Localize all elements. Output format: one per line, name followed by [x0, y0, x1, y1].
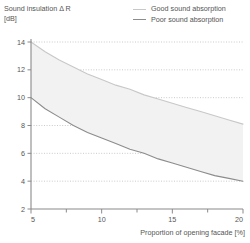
- chart-legend: Good sound absorption Poor sound absorpt…: [133, 4, 226, 25]
- legend-label-good: Good sound absorption: [151, 4, 226, 15]
- y-tick-label-14: 14: [17, 38, 25, 47]
- legend-swatch-good-icon: [133, 9, 146, 10]
- legend-swatch-poor-icon: [133, 19, 146, 20]
- y-tick-label-12: 12: [17, 65, 25, 74]
- legend-label-poor: Poor sound absorption: [151, 15, 223, 26]
- y-axis-title-line1: Sound insulation Δ R: [4, 4, 71, 14]
- y-axis-title-unit: [dB]: [4, 14, 71, 24]
- x-tick-label-15: 15: [168, 215, 176, 224]
- x-tick-label-10: 10: [98, 215, 106, 224]
- legend-item-poor: Poor sound absorption: [133, 15, 226, 26]
- x-tick-label-20: 20: [235, 215, 243, 224]
- y-tick-label-10: 10: [17, 93, 25, 102]
- y-axis-title: Sound insulation Δ R [dB]: [4, 4, 71, 23]
- y-tick-label-4: 4: [21, 177, 25, 186]
- y-tick-label-2: 2: [21, 205, 25, 214]
- chart-figure: Sound insulation Δ R [dB] Good sound abs…: [0, 0, 250, 243]
- y-tick-label-8: 8: [21, 121, 25, 130]
- x-tick-label-5: 5: [31, 215, 35, 224]
- x-axis-title: Proportion of opening facade [%]: [140, 228, 245, 237]
- plot-area: 24681012145101520: [0, 0, 250, 243]
- legend-item-good: Good sound absorption: [133, 4, 226, 15]
- y-tick-label-6: 6: [21, 149, 25, 158]
- band-between-curves: [31, 42, 243, 181]
